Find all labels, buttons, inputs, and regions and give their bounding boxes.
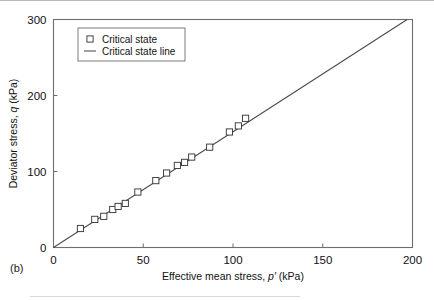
data-point-marker — [207, 144, 213, 150]
critical-state-scatter-chart: 0501001502000100200300 Critical stateCri… — [0, 0, 434, 300]
chart-legend: Critical stateCritical state line — [78, 28, 185, 61]
data-point-marker — [101, 213, 107, 219]
data-point-marker — [115, 203, 121, 209]
data-point-marker — [135, 189, 141, 195]
y-tick-label: 0 — [40, 242, 46, 254]
data-point-marker — [235, 123, 241, 129]
data-point-marker — [242, 115, 248, 121]
data-point-marker — [181, 159, 187, 165]
data-point-marker — [77, 225, 83, 231]
critical-state-points-series — [77, 115, 248, 231]
y-tick-label: 100 — [27, 166, 46, 178]
legend-label: Critical state line — [102, 46, 176, 57]
x-tick-label: 200 — [403, 254, 422, 266]
x-tick-label: 0 — [50, 254, 56, 266]
y-axis-title: Deviator stress, q (kPa) — [7, 79, 19, 189]
x-tick-label: 50 — [137, 254, 150, 266]
legend-square-icon — [87, 36, 93, 42]
x-axis-title: Effective mean stress, p′ (kPa) — [162, 270, 304, 282]
figure-panel: 0501001502000100200300 Critical stateCri… — [0, 0, 434, 300]
data-point-marker — [153, 178, 159, 184]
y-tick-label: 200 — [27, 90, 46, 102]
y-tick-label: 300 — [27, 14, 46, 26]
panel-label: (b) — [10, 262, 23, 274]
data-point-marker — [226, 129, 232, 135]
x-tick-label: 100 — [223, 254, 242, 266]
data-point-marker — [122, 200, 128, 206]
legend-label: Critical state — [102, 34, 157, 45]
data-point-marker — [174, 162, 180, 168]
data-point-marker — [92, 216, 98, 222]
x-tick-label: 150 — [313, 254, 332, 266]
data-point-marker — [163, 170, 169, 176]
data-point-marker — [189, 154, 195, 160]
